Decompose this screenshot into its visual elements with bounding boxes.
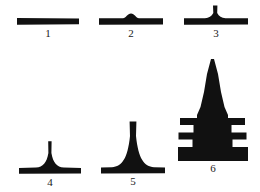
figure-1-flat-bar: 1 <box>16 10 80 32</box>
figure-4-label: 4 <box>18 177 82 188</box>
figure-5-label: 5 <box>100 176 166 187</box>
figure-5-silhouette <box>100 118 166 176</box>
figure-4-silhouette <box>18 140 82 176</box>
figure-2-label: 2 <box>98 28 164 39</box>
figure-2-low-bump: 2 <box>98 10 164 32</box>
figure-3-short-spike: 3 <box>182 4 250 32</box>
figure-plate: 1 2 3 4 5 6 <box>0 0 260 192</box>
figure-5-tall-spire: 5 <box>100 118 166 176</box>
figure-6-label: 6 <box>174 163 252 174</box>
figure-3-label: 3 <box>182 28 250 39</box>
figure-6-tiered-pagoda: 6 <box>174 58 252 176</box>
figure-1-label: 1 <box>16 28 80 39</box>
figure-6-silhouette <box>174 58 252 176</box>
figure-4-tall-spike: 4 <box>18 140 82 176</box>
